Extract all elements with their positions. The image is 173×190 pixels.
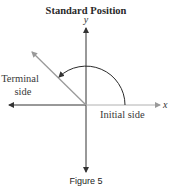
initial-side-label: Initial side <box>100 109 145 120</box>
figure-caption: Figure 5 <box>69 176 102 186</box>
y-axis-label: y <box>83 14 89 25</box>
x-axis-label: x <box>162 99 168 110</box>
standard-position-diagram: Standard Position y x Terminal side Init… <box>0 0 173 190</box>
terminal-side-label-line1: Terminal <box>1 73 39 84</box>
angle-arc <box>59 66 125 105</box>
terminal-side-ray <box>32 52 86 105</box>
terminal-side-label-line2: side <box>15 86 32 97</box>
